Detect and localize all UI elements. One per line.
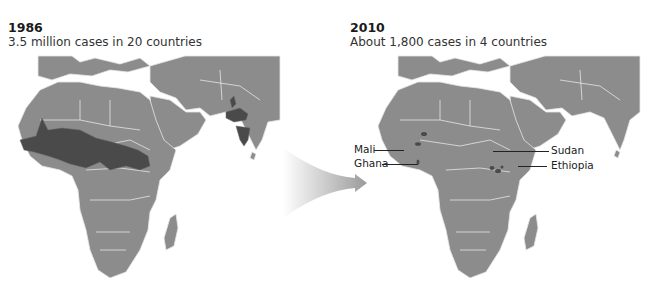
- leader-line-sudan: [493, 151, 549, 152]
- label-ethiopia: Ethiopia: [551, 159, 594, 171]
- leader-line-mali: [374, 150, 404, 151]
- label-mali: Mali: [354, 143, 375, 155]
- map-africa-2010: [340, 0, 654, 296]
- leader-line-ethiopia: [518, 166, 547, 167]
- label-ghana: Ghana: [354, 157, 388, 169]
- map-panel-1986: 1986 3.5 million cases in 20 countries: [0, 0, 300, 296]
- leader-line-ghana: [382, 164, 418, 165]
- map-africa-1986: [0, 0, 300, 296]
- label-sudan: Sudan: [551, 144, 584, 156]
- map-panel-2010: 2010 About 1,800 cases in 4 countries Ma…: [340, 0, 654, 296]
